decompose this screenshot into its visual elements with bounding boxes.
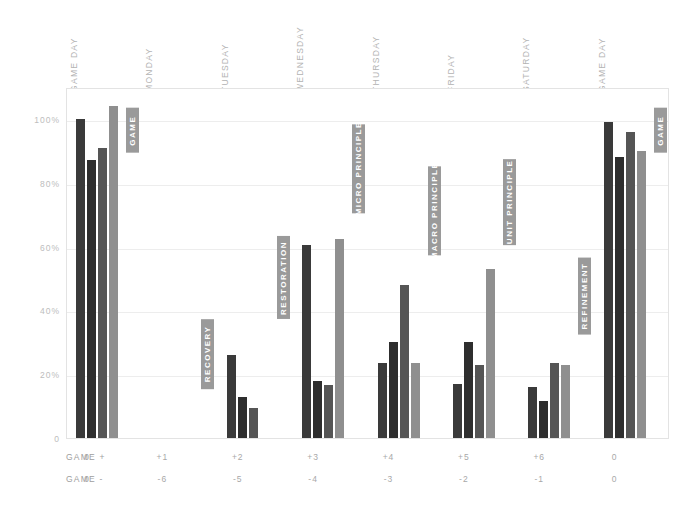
bar-g4-s3 [411, 363, 420, 438]
phase-tag-refinement-6: REFINEMENT [578, 258, 591, 335]
day-label-saturday-6: SATURDAY [521, 37, 531, 92]
bar-g0-s1 [87, 160, 96, 438]
bar-g4-s2 [400, 285, 409, 438]
axis-cell-r1-c1: -6 [158, 474, 168, 484]
bar-g6-s3 [561, 365, 570, 438]
y-tick-1: 20% [16, 370, 60, 380]
bar-g5-s0 [453, 384, 462, 438]
bar-g4-s1 [389, 342, 398, 438]
day-label-game-day-0: GAME DAY [69, 37, 79, 92]
axis-cell-r1-c5: -2 [459, 474, 469, 484]
y-tick-3: 60% [16, 243, 60, 253]
bar-g7-s2 [626, 132, 635, 438]
bar-g0-s3 [109, 106, 118, 438]
bar-g0-s0 [76, 119, 85, 438]
day-label-tuesday-2: TUESDAY [220, 43, 230, 92]
bar-g3-s1 [313, 381, 322, 438]
bar-g6-s2 [550, 363, 559, 438]
axis-cell-r0-c1: +1 [157, 452, 169, 462]
axis-cell-r0-c0: 0 [84, 452, 90, 462]
axis-row-game-plus: GAME +0+1+2+3+4+5+60 [0, 452, 695, 468]
axis-cell-r1-c0: 0 [84, 474, 90, 484]
bar-g6-s0 [528, 387, 537, 438]
y-tick-5: 100% [16, 115, 60, 125]
axis-cell-r0-c2: +2 [232, 452, 244, 462]
bar-g3-s3 [335, 239, 344, 438]
day-label-thursday-4: THURSDAY [371, 35, 381, 92]
axis-cell-r1-c3: -4 [308, 474, 318, 484]
axis-cell-r0-c6: +6 [533, 452, 545, 462]
axis-cell-r0-c5: +5 [458, 452, 470, 462]
axis-cell-r1-c6: -1 [534, 474, 544, 484]
axis-cell-r1-c7: 0 [612, 474, 618, 484]
phase-tag-game-7: GAME [654, 108, 667, 153]
phase-tag-unit-principle-5: UNIT PRINCIPLE [503, 159, 516, 245]
bar-g0-s2 [98, 148, 107, 438]
day-label-monday-1: MONDAY [144, 48, 154, 92]
phase-tag-micro-principle-3: MICRO PRINCIPLE [352, 124, 365, 213]
bar-group-4 [369, 89, 444, 438]
phase-tag-recovery-1: RECOVERY [201, 319, 214, 389]
bar-group-5 [444, 89, 519, 438]
phase-tag-game-0: GAME [126, 108, 139, 153]
axis-cell-r0-c3: +3 [307, 452, 319, 462]
bar-g5-s2 [475, 365, 484, 438]
day-label-friday-5: FRIDAY [446, 54, 456, 92]
bar-g5-s3 [486, 269, 495, 438]
day-label-game-day-7: GAME DAY [597, 37, 607, 92]
bar-g7-s0 [604, 122, 613, 438]
axis-cell-r0-c7: 0 [612, 452, 618, 462]
bar-g2-s1 [238, 397, 247, 438]
bar-g2-s0 [227, 355, 236, 438]
y-tick-0: 0 [16, 434, 60, 444]
bar-g5-s1 [464, 342, 473, 438]
bar-chart: GAME DAYMONDAYTUESDAYWEDNESDAYTHURSDAYFR… [0, 0, 695, 505]
bar-g3-s0 [302, 245, 311, 438]
y-tick-2: 40% [16, 306, 60, 316]
axis-cell-r0-c4: +4 [383, 452, 395, 462]
axis-cell-r1-c2: -5 [233, 474, 243, 484]
phase-tag-macro-principle-4: MACRO PRINCIPLE [428, 166, 441, 255]
bar-g7-s3 [637, 151, 646, 438]
y-axis: 020%40%60%80%100% [8, 88, 60, 439]
phase-tag-restoration-2: RESTORATION [277, 236, 290, 319]
bar-g6-s1 [539, 401, 548, 438]
bar-g4-s0 [378, 363, 387, 438]
day-label-wednesday-3: WEDNESDAY [295, 26, 305, 92]
y-tick-4: 80% [16, 179, 60, 189]
plot-area: GAMERECOVERYRESTORATIONMICRO PRINCIPLEMA… [66, 88, 669, 439]
bar-g7-s1 [615, 157, 624, 438]
bar-g3-s2 [324, 385, 333, 438]
bar-g2-s2 [249, 408, 258, 438]
axis-cell-r1-c4: -3 [384, 474, 394, 484]
axis-row-game-minus: GAME -0-6-5-4-3-2-10 [0, 474, 695, 490]
